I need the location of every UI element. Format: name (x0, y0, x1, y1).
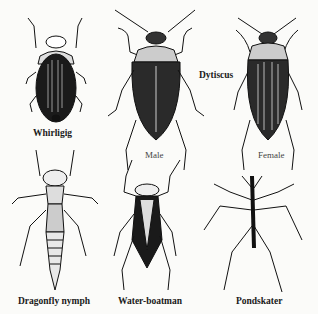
water-boatman-drawing (114, 160, 180, 290)
pond-insects-plate: Whirligig Dytiscus Male Female Dragonfly… (0, 0, 318, 314)
whirligig-drawing (26, 18, 86, 122)
pondskater-label: Pondskater (236, 296, 282, 306)
dytiscus-female-drawing (234, 18, 302, 170)
dragonfly-nymph-label: Dragonfly nymph (18, 296, 90, 306)
dytiscus-male-label: Male (145, 150, 164, 160)
dytiscus-label: Dytiscus (199, 70, 233, 80)
whirligig-label: Whirligig (33, 128, 72, 138)
dytiscus-female-label: Female (258, 150, 285, 160)
dytiscus-male-drawing (108, 10, 204, 170)
water-boatman-label: Water-boatman (118, 296, 182, 306)
dragonfly-nymph-drawing (12, 150, 98, 290)
pondskater-drawing (204, 176, 302, 292)
